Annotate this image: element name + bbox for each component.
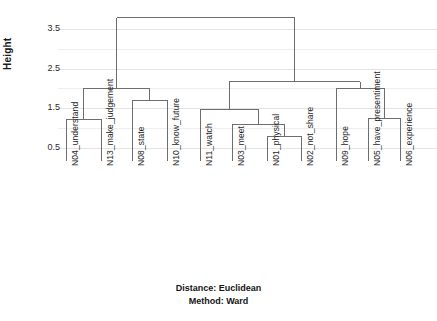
x-axis-leaf-label: N02_not_share <box>305 107 315 166</box>
caption-distance: Distance: Euclidean <box>0 282 437 295</box>
x-axis-leaf-label: N11_watch <box>204 123 214 166</box>
x-axis-leaf-label: N04_understand <box>70 102 80 166</box>
x-axis-leaf-label: N08_state <box>136 126 146 166</box>
x-axis-leaf-label: N03_meet <box>236 126 246 166</box>
x-axis-leaf-label: N13_make_judgement <box>105 79 115 166</box>
x-axis-leaf-label: N05_have_presentiment <box>372 71 382 166</box>
x-axis-leaf-label: N09_hope <box>340 126 350 166</box>
dendrogram-figure: Height 0.51.52.53.5 N04_understandN13_ma… <box>0 0 437 321</box>
x-axis-leaf-label: N06_experience <box>404 103 414 166</box>
caption-method: Method: Ward <box>0 295 437 308</box>
x-axis-leaf-label: N01_physical <box>271 114 281 166</box>
x-axis-leaf-label: N10_know_future <box>171 98 181 166</box>
figure-caption: Distance: Euclidean Method: Ward <box>0 282 437 308</box>
